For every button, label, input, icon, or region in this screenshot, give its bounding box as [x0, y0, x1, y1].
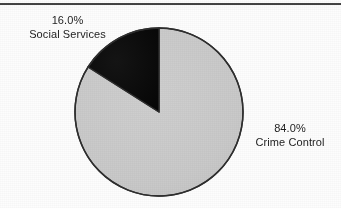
pie-chart-figure: 16.0% Social Services 84.0% Crime Contro…: [0, 0, 341, 208]
pie-svg: [73, 26, 245, 198]
pie-label-social-services: 16.0% Social Services: [10, 14, 125, 41]
pie-label-social-services-percent: 16.0%: [10, 14, 125, 28]
pie-label-crime-control-percent: 84.0%: [240, 122, 340, 136]
pie-label-social-services-name: Social Services: [10, 28, 125, 42]
pie-chart-graphic: [73, 26, 245, 198]
pie-label-crime-control-name: Crime Control: [240, 136, 340, 150]
pie-label-crime-control: 84.0% Crime Control: [240, 122, 340, 149]
top-divider-rule: [0, 3, 341, 5]
